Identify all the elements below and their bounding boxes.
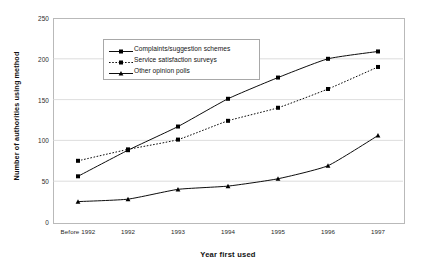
- data-point-marker: [119, 50, 123, 54]
- x-axis-tick-labels: Before 1992199219931994199519961997: [0, 228, 423, 242]
- legend-key-icon: [108, 43, 134, 54]
- data-point-marker: [326, 87, 330, 91]
- x-axis-title: Year first used: [53, 250, 403, 259]
- line-chart: Number of authorities using method 05010…: [0, 0, 423, 270]
- data-point-marker: [176, 138, 180, 142]
- legend-item[interactable]: Other opinion polls: [108, 65, 255, 76]
- series-line: [78, 67, 378, 161]
- y-axis-tick-label: 250: [5, 15, 49, 22]
- data-point-marker: [276, 106, 280, 110]
- data-point-marker: [126, 147, 130, 151]
- data-point-marker: [326, 163, 331, 167]
- data-point-marker: [376, 49, 380, 53]
- x-axis-tick-label: 1994: [221, 228, 235, 235]
- y-axis-tick-label: 200: [5, 55, 49, 62]
- chart-legend: Complaints/suggestion schemesService sat…: [103, 39, 260, 80]
- legend-item[interactable]: Service satisfaction surveys: [108, 54, 255, 65]
- legend-label: Other opinion polls: [134, 67, 190, 74]
- x-axis-tick-label: 1995: [271, 228, 285, 235]
- legend-label: Service satisfaction surveys: [134, 56, 217, 63]
- data-point-marker: [176, 125, 180, 129]
- series-line: [78, 136, 378, 202]
- data-point-marker: [226, 97, 230, 101]
- data-point-marker: [76, 159, 80, 163]
- x-axis-tick-label: 1992: [121, 228, 135, 235]
- data-series: [76, 133, 381, 204]
- y-axis-tick-label: 150: [5, 96, 49, 103]
- x-axis-tick-label: Before 1992: [61, 228, 96, 235]
- legend-item[interactable]: Complaints/suggestion schemes: [108, 43, 255, 54]
- data-point-marker: [276, 76, 280, 80]
- y-axis-tick-label: 100: [5, 137, 49, 144]
- data-point-marker: [376, 133, 381, 137]
- x-axis-tick-label: 1997: [371, 228, 385, 235]
- data-point-marker: [76, 174, 80, 178]
- legend-key-icon: [108, 65, 134, 76]
- y-axis-tick-label: 0: [5, 219, 49, 226]
- data-point-marker: [376, 65, 380, 69]
- x-axis-tick-label: 1993: [171, 228, 185, 235]
- data-point-marker: [326, 57, 330, 61]
- data-point-marker: [119, 61, 123, 65]
- legend-key-icon: [108, 54, 134, 65]
- legend-label: Complaints/suggestion schemes: [134, 45, 230, 52]
- data-point-marker: [226, 119, 230, 123]
- x-axis-tick-label: 1996: [321, 228, 335, 235]
- y-axis-tick-label: 50: [5, 178, 49, 185]
